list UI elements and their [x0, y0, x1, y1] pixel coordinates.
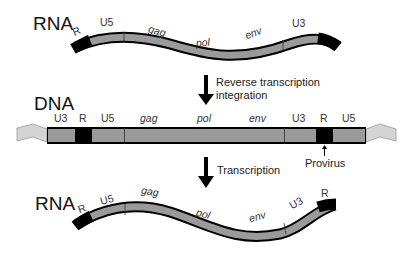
bottom-rna-seg-u3: U3	[287, 194, 305, 211]
dna-seg-r-right: R	[320, 112, 328, 124]
step2: Transcription	[198, 157, 280, 188]
down-arrow-icon	[198, 94, 214, 105]
host-dna-left	[17, 124, 47, 142]
top-rna-seg-u5: U5	[100, 16, 114, 28]
bottom-rna-seg-r-left: R	[76, 201, 88, 215]
bottom-rna-seg-r-right: R	[321, 187, 329, 199]
top-rna-seg-env: env	[243, 24, 264, 41]
dna-seg-env: env	[249, 112, 267, 124]
down-arrow-icon	[198, 176, 214, 188]
up-arrow-icon	[322, 145, 327, 149]
down-arrow-shaft	[204, 75, 208, 95]
top-rna: RNA R U5 gag pol env U3	[33, 13, 338, 55]
step1: Reverse transcription integration	[198, 75, 320, 105]
dna-seg-pol: pol	[196, 112, 212, 124]
bottom-rna-r-right	[318, 204, 336, 207]
top-rna-seg-pol: pol	[194, 36, 211, 49]
top-rna-r-right	[318, 38, 338, 47]
top-rna-title: RNA	[33, 13, 73, 34]
dna-r-left	[75, 128, 92, 143]
dna-title: DNA	[34, 93, 74, 114]
bottom-rna-seg-gag: gag	[140, 184, 159, 199]
top-rna-seg-u3: U3	[292, 17, 306, 29]
provirus-label: Provirus	[305, 157, 346, 169]
dna-r-right	[316, 128, 333, 143]
step1-label-line2: integration	[216, 89, 267, 101]
bottom-rna-title: RNA	[35, 193, 75, 214]
bottom-rna-seg-env: env	[247, 208, 267, 224]
host-dna-right	[366, 124, 396, 142]
step2-label: Transcription	[217, 164, 280, 176]
dna-seg-u5-right: U5	[342, 112, 356, 124]
bottom-rna-r-left	[75, 216, 91, 226]
step1-label-line1: Reverse transcription	[216, 76, 320, 88]
bottom-rna: RNA R U5 gag pol env U3 R	[35, 184, 336, 237]
dna-seg-r-left: R	[79, 112, 87, 124]
dna-seg-u3-left: U3	[54, 112, 68, 124]
down-arrow-shaft-2	[204, 157, 208, 177]
top-rna-seg-r: R	[70, 24, 82, 38]
retrovirus-diagram: RNA R U5 gag pol env U3 Reverse transcri…	[0, 0, 413, 254]
dna-seg-u3-right: U3	[292, 112, 306, 124]
dna-seg-gag: gag	[140, 112, 158, 124]
dna-seg-u5-left: U5	[101, 112, 115, 124]
